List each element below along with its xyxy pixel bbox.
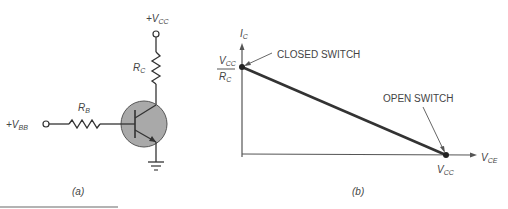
rb-resistor: [69, 120, 100, 128]
open-switch-pointer: [423, 107, 444, 151]
ground-icon: [148, 162, 164, 170]
caption-a: (a): [72, 186, 84, 197]
caption-b: (b): [352, 186, 364, 197]
x-axis-arrow-icon: [470, 153, 477, 158]
vcc-terminal: [153, 31, 159, 37]
load-line: [242, 67, 446, 155]
rc-label: RC: [133, 62, 146, 74]
cutoff-point: [443, 152, 449, 158]
figure: +VCC RC +VBB RB (a): [0, 0, 508, 209]
y-axis-arrow-icon: [240, 43, 245, 50]
rc-resistor: [152, 52, 160, 84]
y-axis-label: IC: [240, 28, 249, 40]
rb-label: RB: [78, 102, 90, 114]
vcc-label: +VCC: [146, 13, 170, 25]
svg-text:RC: RC: [219, 71, 232, 83]
open-switch-label: OPEN SWITCH: [383, 93, 454, 104]
closed-switch-label: CLOSED SWITCH: [277, 49, 360, 60]
vbb-label: +VBB: [6, 119, 28, 131]
vbb-terminal: [43, 121, 49, 127]
transistor-switch-circuit: +VCC RC +VBB RB (a): [6, 13, 170, 197]
y-intercept-label: VCC RC: [217, 55, 237, 83]
saturation-point: [239, 64, 245, 70]
x-intercept-label: VCC: [437, 164, 455, 176]
load-line-graph: IC VCE VCC RC VCC CLOSED SWITCH OPEN SWI…: [217, 28, 498, 197]
svg-text:VCC: VCC: [219, 55, 237, 67]
x-axis: [242, 154, 472, 155]
x-axis-label: VCE: [481, 152, 498, 164]
